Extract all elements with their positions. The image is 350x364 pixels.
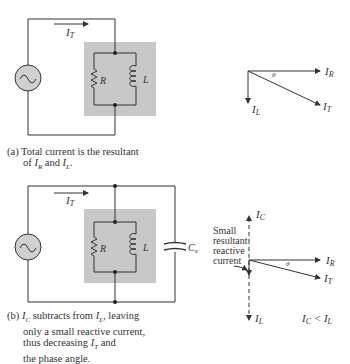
svg-text:R: R (99, 243, 106, 254)
svg-text:Cx: Cx (188, 242, 199, 255)
svg-text:L: L (142, 74, 149, 85)
caption-a-line1: (a) Total current is the resultant (7, 146, 139, 157)
caption-b-line4: the phase angle. (7, 353, 145, 364)
capacitor-icon (164, 243, 186, 245)
phasor-b: θ IC IR IT IL IC < IL (234, 208, 335, 326)
circuit-b: Cx IT R L (15, 184, 199, 304)
svg-text:IC: IC (255, 208, 266, 222)
svg-text:θ: θ (286, 260, 290, 268)
annotation-line: current (213, 256, 247, 266)
svg-text:IR: IR (324, 65, 334, 79)
svg-text:IL: IL (251, 103, 261, 117)
caption-b: (b) IC subtracts from IL, leaving only a… (7, 310, 145, 364)
svg-text:R: R (99, 75, 106, 86)
caption-b-line2: only a small reactive current, (7, 326, 145, 337)
caption-b-line1: (b) IC subtracts from IL, leaving (7, 310, 145, 326)
circuit-a: IT R L (15, 19, 156, 135)
svg-text:IT: IT (65, 26, 75, 40)
svg-text:IR: IR (325, 254, 335, 268)
svg-text:IL: IL (254, 312, 264, 326)
caption-a: (a) Total current is the resultant of IR… (7, 146, 139, 173)
phasor-a: θ IR IL IT (248, 65, 334, 117)
svg-text:IT: IT (65, 194, 75, 208)
svg-text:IC < IL: IC < IL (301, 312, 333, 326)
svg-text:L: L (142, 242, 149, 253)
small-resultant-annotation: Small resultant reactive current (213, 226, 247, 266)
svg-text:IT: IT (322, 100, 332, 114)
caption-a-line2: of IR and IL. (7, 157, 139, 173)
svg-text:θ: θ (272, 71, 276, 79)
svg-text:IT: IT (323, 272, 333, 286)
caption-b-line3: thus decreasing IT and (7, 337, 145, 353)
